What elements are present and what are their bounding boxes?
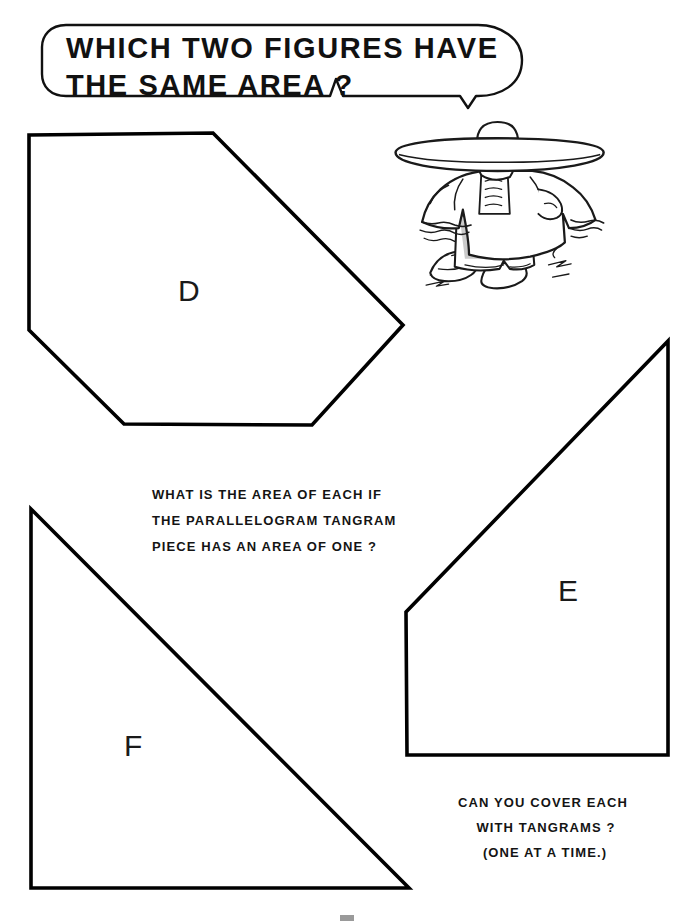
bottom-instruction-line-1: CAN YOU COVER EACH <box>438 790 648 815</box>
speech-bubble-line-2: THE SAME AREA ? <box>66 66 354 104</box>
bottom-instruction-text: CAN YOU COVER EACH WITH TANGRAMS ? (ONE … <box>438 790 648 865</box>
character-illustration <box>0 0 695 921</box>
middle-instruction-line-1: WHAT IS THE AREA OF EACH IF <box>152 482 396 508</box>
bottom-instruction-line-3: (ONE AT A TIME.) <box>438 840 648 865</box>
worksheet-page: WHICH TWO FIGURES HAVE THE SAME AREA ? D… <box>0 0 695 921</box>
figure-e-label: E <box>558 576 578 606</box>
sombrero <box>396 122 604 171</box>
figure-f-label: F <box>124 731 142 761</box>
bottom-instruction-line-2: WITH TANGRAMS ? <box>438 815 648 840</box>
middle-instruction-line-3: PIECE HAS AN AREA OF ONE ? <box>152 534 396 560</box>
speech-bubble-line-1: WHICH TWO FIGURES HAVE <box>66 29 499 67</box>
figure-d-label: D <box>178 276 200 306</box>
middle-instruction-line-2: THE PARALLELOGRAM TANGRAM <box>152 508 396 534</box>
poncho <box>420 171 604 259</box>
middle-instruction-text: WHAT IS THE AREA OF EACH IF THE PARALLEL… <box>152 482 396 560</box>
